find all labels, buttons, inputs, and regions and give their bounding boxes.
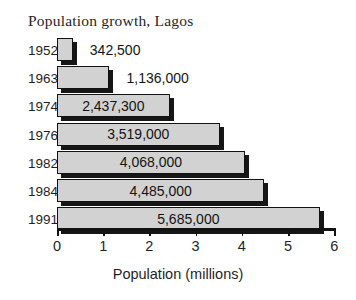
bar-row: 1952342,500 <box>0 36 356 64</box>
bar-value-label: 3,519,000 <box>58 126 219 142</box>
bar-fill: 5,685,000 <box>57 207 320 230</box>
bar: 4,068,000 <box>57 151 245 174</box>
year-axis-label: 1976 <box>28 127 58 142</box>
x-axis-tick-label: 5 <box>284 238 292 254</box>
bar-fill: 2,437,300 <box>57 94 170 117</box>
x-axis-tick <box>196 228 198 236</box>
x-axis-tick-label: 4 <box>238 238 246 254</box>
bar-row: 19844,485,000 <box>0 177 356 205</box>
bar <box>57 38 73 61</box>
bar <box>57 66 109 89</box>
year-axis-label: 1952 <box>28 43 58 58</box>
chart-figure: Population growth, Lagos 1952342,5001963… <box>0 0 356 300</box>
x-axis-tick-label: 2 <box>145 238 153 254</box>
bar-fill: 4,068,000 <box>57 151 245 174</box>
bar: 4,485,000 <box>57 179 264 202</box>
x-axis-tick-label: 1 <box>99 238 107 254</box>
x-axis-label: Population (millions) <box>0 266 356 282</box>
x-axis-tick <box>242 228 244 236</box>
bar: 5,685,000 <box>57 207 320 230</box>
bar-row: 19763,519,000 <box>0 121 356 149</box>
bar: 3,519,000 <box>57 123 220 146</box>
x-axis-tick-label: 0 <box>53 238 61 254</box>
bar-fill <box>57 38 73 61</box>
bar-value-label: 5,685,000 <box>58 211 319 227</box>
bar-value-label: 342,500 <box>90 42 141 58</box>
plot-area: 1952342,50019631,136,00019742,437,300197… <box>0 0 356 300</box>
year-axis-label: 1991 <box>28 212 58 227</box>
bar: 2,437,300 <box>57 94 170 117</box>
bar-value-label: 1,136,000 <box>126 70 188 86</box>
x-axis-tick-label: 6 <box>330 238 338 254</box>
x-axis-tick <box>103 228 105 236</box>
bar-fill <box>57 66 109 89</box>
bar-row: 19824,068,000 <box>0 149 356 177</box>
bar-row: 19742,437,300 <box>0 92 356 120</box>
bar-value-label: 4,068,000 <box>58 154 244 170</box>
bar-fill: 3,519,000 <box>57 123 220 146</box>
x-axis-tick <box>288 228 290 236</box>
x-axis-tick <box>149 228 151 236</box>
bar-value-label: 2,437,300 <box>58 98 169 114</box>
bar-value-label: 4,485,000 <box>58 183 263 199</box>
x-axis-tick <box>57 228 59 236</box>
year-axis-label: 1974 <box>28 99 58 114</box>
year-axis-label: 1984 <box>28 184 58 199</box>
year-axis-label: 1982 <box>28 155 58 170</box>
x-axis-tick <box>334 228 336 236</box>
year-axis-label: 1963 <box>28 71 58 86</box>
x-axis-tick-label: 3 <box>192 238 200 254</box>
bar-fill: 4,485,000 <box>57 179 264 202</box>
bar-row: 19631,136,000 <box>0 64 356 92</box>
